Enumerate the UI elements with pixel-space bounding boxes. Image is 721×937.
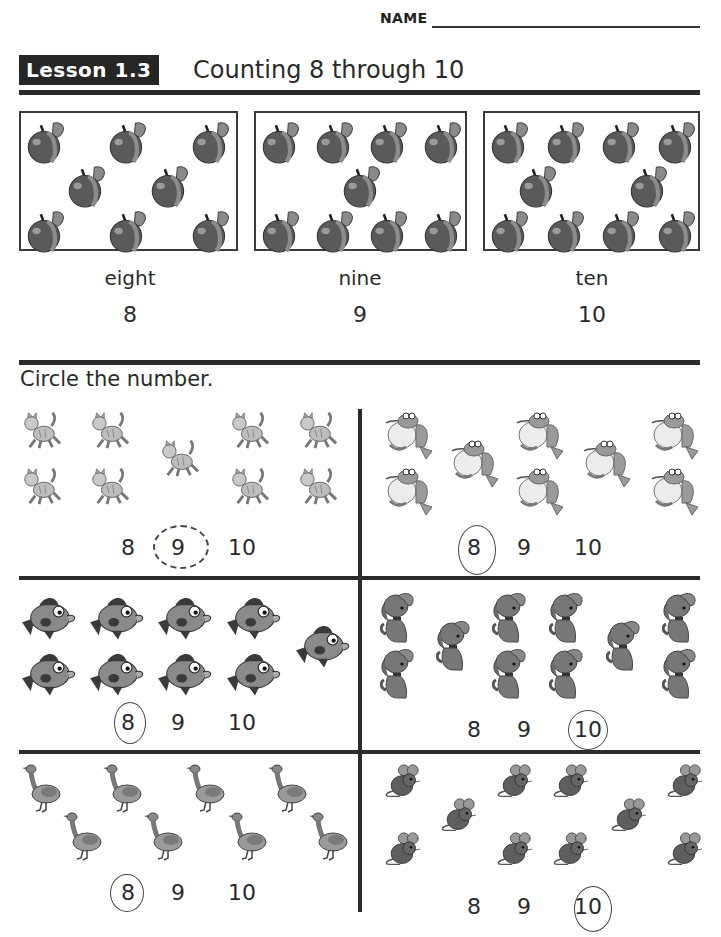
example-word-eight: eight [50, 266, 210, 290]
example-word-ten: ten [512, 266, 672, 290]
fish-icon [225, 592, 285, 644]
apple-icon [366, 119, 410, 165]
pencil-circle-mark [153, 525, 209, 569]
example-number-nine: 9 [280, 302, 440, 327]
exercise-mice: 8 9 10 [362, 754, 721, 937]
frog-icon [648, 407, 700, 463]
frog-icon [382, 463, 434, 519]
section-rule [19, 360, 700, 365]
name-label: NAME [380, 10, 427, 26]
choice-8[interactable]: 8 [454, 892, 494, 922]
cat-icon [88, 409, 130, 451]
apple-icon [312, 119, 356, 165]
apple-icon [105, 119, 149, 165]
exercise-geese: 8 9 10 [0, 754, 358, 937]
apple-icon [487, 208, 531, 254]
pencil-circle-mark [574, 886, 612, 932]
fish-icon [20, 592, 80, 644]
exercise-cats: 8 9 10 [0, 395, 358, 576]
name-field-line[interactable] [432, 26, 700, 28]
frog-icon [513, 407, 565, 463]
mouse-icon [608, 798, 648, 834]
dog-icon [549, 646, 585, 702]
choice-10[interactable]: 10 [568, 533, 608, 563]
lesson-title: Counting 8 through 10 [193, 54, 464, 86]
example-number-ten: 10 [512, 302, 672, 327]
dog-icon [492, 646, 528, 702]
cat-icon [158, 437, 200, 479]
dog-icon [549, 590, 585, 646]
apple-icon [598, 208, 642, 254]
apple-icon [339, 163, 383, 209]
choice-10[interactable]: 10 [222, 878, 262, 908]
goose-icon [20, 762, 64, 814]
example-frame-ten [483, 111, 700, 251]
mouse-icon [382, 764, 422, 800]
goose-icon [101, 762, 145, 814]
goose-icon [266, 762, 310, 814]
apple-icon [188, 208, 232, 254]
fish-icon [156, 648, 216, 700]
choice-9[interactable]: 9 [504, 715, 544, 745]
goose-icon [184, 762, 228, 814]
apple-icon [312, 208, 356, 254]
dog-icon [606, 618, 642, 674]
pencil-circle-mark [110, 874, 144, 912]
mouse-icon [382, 832, 422, 868]
dog-icon [662, 646, 698, 702]
choice-10[interactable]: 10 [222, 533, 262, 563]
cat-icon [228, 465, 270, 507]
mouse-icon [550, 764, 590, 800]
cat-icon [228, 409, 270, 451]
choice-9[interactable]: 9 [158, 878, 198, 908]
choice-8[interactable]: 8 [454, 715, 494, 745]
apple-icon [23, 208, 67, 254]
goose-icon [61, 810, 105, 862]
exercise-fish: 8 9 10 [0, 580, 358, 750]
example-word-nine: nine [280, 266, 440, 290]
apple-icon [366, 208, 410, 254]
fish-icon [88, 648, 148, 700]
choice-9[interactable]: 9 [158, 708, 198, 738]
cat-icon [88, 465, 130, 507]
apple-icon [420, 119, 464, 165]
choice-9[interactable]: 9 [504, 533, 544, 563]
choice-8[interactable]: 8 [108, 533, 148, 563]
apple-icon [543, 208, 587, 254]
frog-icon [513, 463, 565, 519]
apple-icon [147, 163, 191, 209]
goose-icon [307, 810, 351, 862]
exercise-frogs: 8 9 10 [362, 395, 721, 576]
cat-icon [20, 465, 62, 507]
mouse-icon [494, 832, 534, 868]
example-frame-nine [254, 111, 467, 251]
goose-icon [142, 810, 186, 862]
apple-icon [23, 119, 67, 165]
apple-icon [64, 163, 108, 209]
mouse-icon [550, 832, 590, 868]
fish-icon [88, 592, 148, 644]
mouse-icon [664, 832, 704, 868]
apple-icon [188, 119, 232, 165]
frog-icon [580, 435, 632, 491]
apple-icon [654, 208, 698, 254]
fish-icon [294, 620, 354, 672]
lesson-badge: Lesson 1.3 [19, 55, 159, 85]
apple-icon [654, 119, 698, 165]
dog-icon [436, 618, 472, 674]
mouse-icon [664, 764, 704, 800]
apple-icon [105, 208, 149, 254]
fish-icon [20, 648, 80, 700]
instruction-text: Circle the number. [20, 367, 214, 391]
apple-icon [543, 119, 587, 165]
pencil-circle-mark [114, 702, 146, 744]
goose-icon [226, 810, 270, 862]
frog-icon [382, 407, 434, 463]
choice-10[interactable]: 10 [222, 708, 262, 738]
dog-icon [492, 590, 528, 646]
dog-icon [380, 590, 416, 646]
mouse-icon [494, 764, 534, 800]
choice-9[interactable]: 9 [504, 892, 544, 922]
example-number-eight: 8 [50, 302, 210, 327]
frog-icon [648, 463, 700, 519]
